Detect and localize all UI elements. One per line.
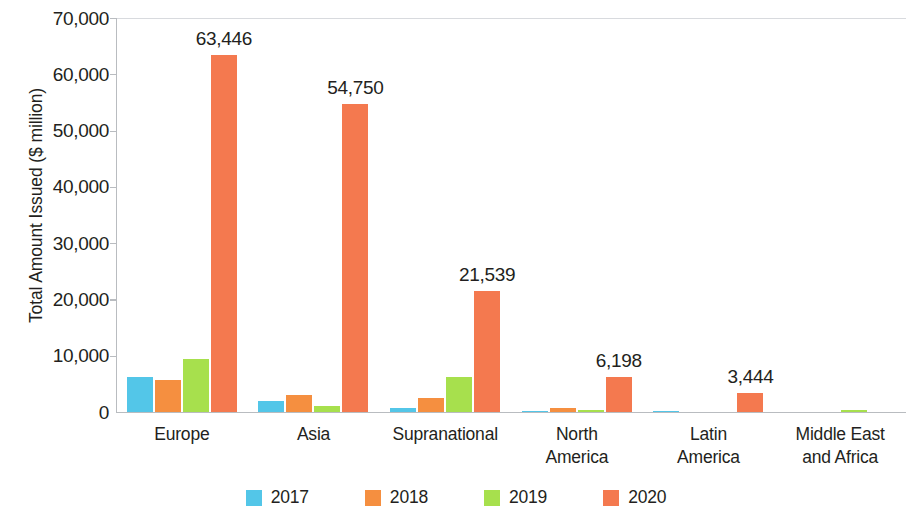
- y-axis-tick-labels: 010,00020,00030,00040,00050,00060,00070,…: [0, 0, 109, 519]
- bar-group: [774, 18, 906, 412]
- bar-2019-asia[interactable]: [314, 406, 340, 412]
- bar-2020-supranational[interactable]: [474, 291, 500, 412]
- bar-2018-supranational[interactable]: [418, 398, 444, 412]
- legend-label: 2019: [509, 489, 547, 507]
- bar-2018-north-america[interactable]: [550, 408, 576, 412]
- y-axis-tick-label: 10,000: [9, 346, 109, 365]
- bar-2017-latin-america[interactable]: [653, 411, 679, 412]
- y-axis-tick-label: 60,000: [9, 65, 109, 84]
- legend-swatch-icon: [246, 490, 262, 506]
- x-axis-label-line: and Africa: [760, 446, 912, 469]
- y-axis-tick-label: 70,000: [9, 9, 109, 28]
- bar-2019-middle-east-and-africa[interactable]: [841, 410, 867, 412]
- bar-group: 6,198: [511, 18, 643, 412]
- bar-2017-asia[interactable]: [258, 401, 284, 412]
- x-axis-category-labels: EuropeAsiaSupranationalNorthAmericaLatin…: [116, 423, 906, 481]
- legend-item-2020[interactable]: 2020: [603, 489, 666, 507]
- y-axis-tick-label: 30,000: [9, 234, 109, 253]
- bar-2019-europe[interactable]: [183, 359, 209, 412]
- bar-2020-north-america[interactable]: [606, 377, 632, 412]
- bar-2017-europe[interactable]: [127, 377, 153, 412]
- x-axis-label-middle-east-and-africa: Middle Eastand Africa: [760, 423, 912, 469]
- legend-item-2018[interactable]: 2018: [365, 489, 428, 507]
- bar-chart: Total Amount Issued ($ million) 010,0002…: [0, 0, 912, 519]
- legend-label: 2017: [271, 489, 309, 507]
- y-axis-tick-label: 50,000: [9, 121, 109, 140]
- bar-group: 21,539: [379, 18, 511, 412]
- plot-area: 63,44654,75021,5396,1983,444: [116, 18, 906, 412]
- bar-2017-north-america[interactable]: [522, 411, 548, 412]
- bar-2020-asia[interactable]: [342, 104, 368, 412]
- bar-2018-europe[interactable]: [155, 380, 181, 412]
- bar-2019-supranational[interactable]: [446, 377, 472, 412]
- bar-2017-supranational[interactable]: [390, 408, 416, 412]
- y-axis-tick-label: 0: [9, 403, 109, 422]
- bar-group: 54,750: [248, 18, 380, 412]
- bar-group: 3,444: [643, 18, 775, 412]
- chart-legend: 2017201820192020: [0, 489, 912, 507]
- y-axis-tick-label: 40,000: [9, 177, 109, 196]
- bar-group: 63,446: [116, 18, 248, 412]
- x-axis-label-line: Middle East: [760, 423, 912, 446]
- legend-item-2019[interactable]: 2019: [484, 489, 547, 507]
- bar-2020-europe[interactable]: [211, 55, 237, 412]
- x-axis-line: [116, 412, 906, 413]
- bar-2020-latin-america[interactable]: [737, 393, 763, 412]
- legend-swatch-icon: [484, 490, 500, 506]
- legend-label: 2020: [628, 489, 666, 507]
- legend-swatch-icon: [603, 490, 619, 506]
- bar-2019-north-america[interactable]: [578, 410, 604, 412]
- legend-label: 2018: [390, 489, 428, 507]
- legend-swatch-icon: [365, 490, 381, 506]
- legend-item-2017[interactable]: 2017: [246, 489, 309, 507]
- bar-2018-asia[interactable]: [286, 395, 312, 412]
- y-axis-tick-label: 20,000: [9, 290, 109, 309]
